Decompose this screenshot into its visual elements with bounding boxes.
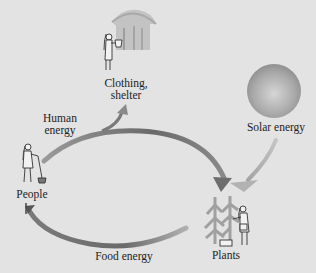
diagram-graphics <box>0 0 316 273</box>
clothing-label-line1: Clothing, <box>100 77 152 89</box>
clothing-shelter-label: Clothing, shelter <box>100 77 152 101</box>
food-energy-label: Food energy <box>92 250 156 262</box>
people-label: People <box>12 188 52 200</box>
human-label-line1: Human <box>38 112 82 124</box>
solar-energy-arrow <box>230 140 276 192</box>
person-farming-icon <box>23 144 46 183</box>
energy-flow-diagram: Clothing, shelter Human energy Solar ene… <box>0 0 316 273</box>
person-harvesting-icon <box>220 206 249 246</box>
human-energy-label: Human energy <box>38 112 82 136</box>
food-energy-arrow <box>25 203 186 246</box>
shelter-label-line2: shelter <box>100 89 152 101</box>
plants-icon <box>205 196 239 244</box>
sun-sphere-icon <box>247 64 301 118</box>
energy-label-line2: energy <box>38 124 82 136</box>
solar-energy-label: Solar energy <box>240 121 312 133</box>
plants-label: Plants <box>208 249 244 261</box>
